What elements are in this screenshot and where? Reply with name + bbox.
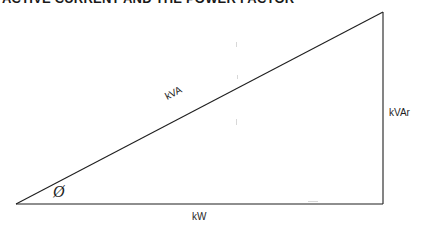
label-kvar: kVAr [389,107,410,118]
label-phase-angle: Ø [53,184,65,200]
triangle-hypotenuse-line [16,12,383,204]
diagram-page: ACTIVE CURRENT AND THE POWER FACTOR kVA … [0,0,433,240]
power-triangle-drawing [0,0,433,240]
label-kw: kW [192,211,206,222]
